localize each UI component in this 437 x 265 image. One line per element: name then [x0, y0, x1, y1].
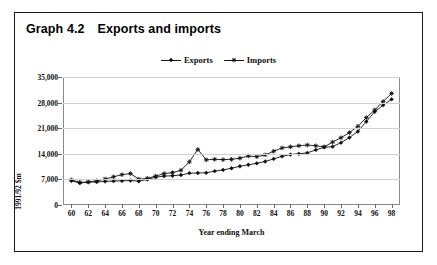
- gridline: [63, 103, 400, 104]
- data-point-marker: [280, 154, 284, 158]
- series-imports: [69, 91, 394, 184]
- data-point-marker: [313, 143, 318, 148]
- x-tick-label: 72: [169, 209, 177, 218]
- y-tick-label: 35,000: [37, 73, 58, 82]
- x-tick-mark: [122, 204, 123, 208]
- data-point-marker: [120, 172, 125, 177]
- data-point-marker: [297, 143, 302, 148]
- x-tick-mark: [358, 204, 359, 208]
- y-axis-labels: 1991/92 $m 07,00014,00021,00028,00035,00…: [0, 77, 58, 205]
- series-exports: [70, 97, 394, 185]
- figure-title: Graph 4.2Exports and imports: [26, 22, 221, 36]
- gridline: [63, 77, 400, 78]
- data-point-marker: [221, 168, 225, 172]
- legend-item-exports[interactable]: Exports: [161, 55, 213, 65]
- data-point-marker: [238, 156, 243, 161]
- x-tick-mark: [139, 204, 140, 208]
- x-tick-label: 84: [270, 209, 278, 218]
- chart-legend: ExportsImports: [0, 55, 437, 65]
- y-tick-label: 14,000: [37, 149, 58, 158]
- data-point-marker: [78, 180, 83, 185]
- x-tick-label: 62: [85, 209, 93, 218]
- data-point-marker: [288, 145, 293, 150]
- x-tick-mark: [223, 204, 224, 208]
- x-tick-label: 86: [287, 209, 295, 218]
- x-tick-label: 82: [253, 209, 261, 218]
- x-tick-label: 98: [388, 209, 396, 218]
- y-tick-mark: [58, 154, 62, 155]
- data-point-marker: [364, 115, 369, 120]
- gridline: [63, 179, 400, 180]
- data-point-marker: [204, 158, 209, 163]
- data-point-marker: [162, 171, 167, 176]
- x-tick-mark: [392, 204, 393, 208]
- x-tick-mark: [307, 204, 308, 208]
- y-tick-label: 7,000: [41, 175, 58, 184]
- data-point-marker: [229, 157, 234, 162]
- data-point-marker: [272, 157, 276, 161]
- x-tick-mark: [240, 204, 241, 208]
- y-tick-label: 21,000: [37, 124, 58, 133]
- y-tick-mark: [58, 179, 62, 180]
- x-axis-labels: 6062646668707274767880828486889092949698: [63, 209, 400, 223]
- data-point-marker: [314, 148, 318, 152]
- data-point-marker: [331, 145, 335, 149]
- x-tick-mark: [290, 204, 291, 208]
- x-tick-label: 88: [304, 209, 312, 218]
- data-point-marker: [322, 145, 327, 150]
- data-point-marker: [153, 174, 158, 179]
- data-point-marker: [187, 160, 192, 165]
- x-tick-label: 64: [101, 209, 109, 218]
- y-axis-title: 1991/92 $m: [14, 148, 23, 236]
- data-point-marker: [389, 91, 394, 96]
- x-tick-mark: [375, 204, 376, 208]
- gridline: [63, 128, 400, 129]
- figure-container: Graph 4.2Exports and imports ExportsImpo…: [0, 0, 437, 265]
- x-tick-mark: [156, 204, 157, 208]
- x-tick-label: 76: [202, 209, 210, 218]
- x-tick-label: 78: [219, 209, 227, 218]
- legend-label: Imports: [246, 55, 276, 65]
- x-tick-label: 80: [236, 209, 244, 218]
- data-point-marker: [230, 166, 234, 170]
- data-point-marker: [179, 168, 184, 173]
- x-tick-label: 96: [371, 209, 379, 218]
- data-point-marker: [196, 147, 201, 152]
- x-tick-label: 70: [152, 209, 160, 218]
- gridline: [63, 154, 400, 155]
- x-tick-mark: [189, 204, 190, 208]
- x-axis-title: Year ending March: [63, 228, 400, 237]
- y-tick-mark: [58, 205, 62, 206]
- x-tick-label: 94: [354, 209, 362, 218]
- data-point-marker: [305, 143, 310, 148]
- y-tick-mark: [58, 128, 62, 129]
- y-tick-mark: [58, 77, 62, 78]
- x-tick-mark: [71, 204, 72, 208]
- x-tick-label: 68: [135, 209, 143, 218]
- data-point-marker: [179, 173, 183, 177]
- data-point-marker: [255, 161, 259, 165]
- data-point-marker: [221, 157, 226, 162]
- legend-diamond-icon: [161, 56, 181, 65]
- x-tick-mark: [88, 204, 89, 208]
- x-tick-label: 74: [186, 209, 194, 218]
- figure-title-text: Exports and imports: [98, 22, 221, 36]
- plot-svg: [63, 77, 400, 205]
- figure-title-number: Graph 4.2: [26, 22, 85, 36]
- data-point-marker: [280, 146, 285, 151]
- x-tick-label: 92: [337, 209, 345, 218]
- legend-star-icon: [224, 56, 244, 65]
- data-point-marker: [347, 130, 352, 135]
- data-point-marker: [330, 140, 335, 145]
- data-point-marker: [254, 154, 259, 159]
- legend-item-imports[interactable]: Imports: [224, 55, 276, 65]
- data-point-marker: [339, 135, 344, 140]
- data-point-marker: [246, 163, 250, 167]
- x-tick-mark: [105, 204, 106, 208]
- data-point-marker: [238, 164, 242, 168]
- x-tick-label: 90: [320, 209, 328, 218]
- data-point-marker: [170, 170, 175, 175]
- data-point-marker: [372, 108, 377, 113]
- x-tick-mark: [274, 204, 275, 208]
- data-point-marker: [204, 171, 208, 175]
